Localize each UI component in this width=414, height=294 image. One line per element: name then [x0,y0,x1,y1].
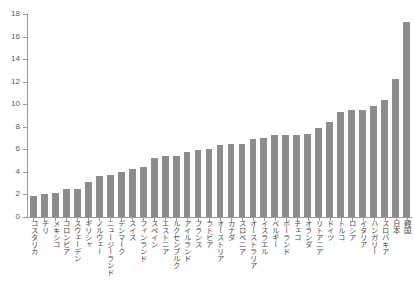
bar [96,14,103,217]
bar-rect [250,139,257,217]
x-axis-label: ルクセンブルク [172,219,180,268]
x-axis-label: リトアニア [315,219,323,254]
x-axis-tick [319,218,320,221]
y-axis-tick-label: 0 [0,213,20,221]
y-axis-tick [23,104,28,105]
y-axis-tick [23,127,28,128]
y-axis-tick-label: 12 [0,78,20,86]
y-axis-tick [23,172,28,173]
x-axis-label: ギリシャ [84,219,92,247]
x-axis-label: フィンランド [139,219,147,261]
bar-rect [184,152,191,217]
bar [392,14,399,217]
x-axis-tick [77,218,78,221]
bar [162,14,169,217]
plot-area [28,14,412,217]
y-axis-tick-label: 2 [0,190,20,198]
x-axis-label: コロンビア [62,219,70,254]
bar [304,14,311,217]
x-axis-tick [275,218,276,221]
bar [370,14,377,217]
x-axis-label: デンマーク [117,219,125,254]
x-axis-label: 日本 [392,219,400,233]
bar-rect [217,145,224,217]
bar [228,14,235,217]
y-axis-tick [23,217,28,218]
bar [107,14,114,217]
bar [217,14,224,217]
x-axis-label: 韓国 [403,219,411,233]
bar-rect [41,194,48,217]
x-axis-tick [231,218,232,221]
x-axis-tick [286,218,287,221]
y-axis-tick-label: 8 [0,123,20,131]
bar [173,14,180,217]
bar [41,14,48,217]
x-axis-label: ポーランド [282,219,290,254]
bar [359,14,366,217]
bar-rect [63,189,70,217]
bar [239,14,246,217]
bar-rect [30,196,37,217]
bar [403,14,410,217]
bar-rect [315,128,322,217]
y-axis-tick-label: 6 [0,145,20,153]
bar [52,14,59,217]
bar [129,14,136,217]
x-axis-tick [220,218,221,221]
y-axis-tick [23,37,28,38]
x-axis-tick [121,218,122,221]
bar [206,14,213,217]
bar [184,14,191,217]
x-axis-tick [33,218,34,221]
x-axis-tick [187,218,188,221]
bar [118,14,125,217]
x-axis-label: ノルウェー [95,219,103,254]
bar [85,14,92,217]
x-axis-label: スイス [128,219,136,240]
y-axis-tick-label: 18 [0,10,20,18]
y-axis-tick [23,14,28,15]
bar-rect [140,167,147,217]
x-axis-tick [253,218,254,221]
x-axis-tick [154,218,155,221]
x-axis-label: トルコ [337,219,345,240]
bar [195,14,202,217]
bar-rect [260,138,267,217]
bar [326,14,333,217]
x-axis-label: スペイン [150,219,158,247]
bar-rect [96,176,103,217]
x-axis-label: ニュージーランド [106,219,114,275]
x-axis-label: オーストラリア [249,219,257,268]
bar [337,14,344,217]
x-axis-tick [407,218,408,221]
bar-rect [239,144,246,217]
bar-rect [403,22,410,217]
bar-rect [85,182,92,217]
bar [271,14,278,217]
x-axis-label: ラトビア [205,219,213,247]
y-axis-tick [23,59,28,60]
bar [151,14,158,217]
x-axis-label: メキシコ [51,219,59,247]
x-axis-tick [209,218,210,221]
bar-rect [206,149,213,217]
bar-rect [52,193,59,217]
x-axis-label: オランダ [304,219,312,247]
bar [140,14,147,217]
x-axis-label: スロベニア [238,219,246,254]
x-axis-label: フランス [194,219,202,247]
x-axis-tick [341,218,342,221]
y-axis-tick [23,194,28,195]
bar-rect [74,189,81,217]
bar [63,14,70,217]
x-axis-label: オーストリア [216,219,224,261]
bar-rect [282,135,289,217]
x-axis-tick [99,218,100,221]
bar [260,14,267,217]
y-axis-tick-label: 4 [0,168,20,176]
x-axis-tick [297,218,298,221]
bar-rect [118,172,125,217]
x-axis-tick [374,218,375,221]
x-axis-tick [363,218,364,221]
